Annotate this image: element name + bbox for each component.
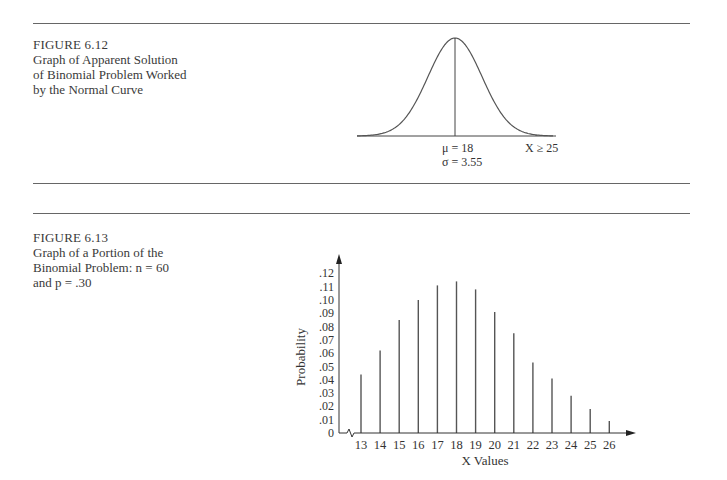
x-tick-labels: 1314151617181920212223242526 — [355, 438, 616, 452]
x-tick-label: 13 — [355, 438, 368, 452]
x-tick-label: 24 — [565, 438, 578, 452]
x-axis-arrow-icon — [626, 430, 636, 436]
y-tick-label: .06 — [319, 346, 334, 360]
x-tick-label: 26 — [603, 438, 616, 452]
y-tick-label: .09 — [319, 306, 334, 320]
x-tick-label: 22 — [527, 438, 540, 452]
x-region-label: X ≥ 25 — [525, 141, 558, 155]
x-tick-label: 21 — [508, 438, 521, 452]
y-axis-label: Probability — [293, 328, 308, 386]
probability-bars — [361, 281, 609, 433]
x-axis-with-break — [339, 429, 628, 437]
y-tick-label: .11 — [319, 280, 334, 294]
y-tick-labels: 0.01.02.03.04.05.06.07.08.09.10.11.12 — [319, 266, 334, 440]
y-tick-label: .05 — [319, 360, 334, 374]
x-axis-label: X Values — [461, 453, 508, 468]
normal-curve-chart: μ = 18 σ = 3.55 X ≥ 25 — [357, 38, 558, 169]
sigma-label: σ = 3.55 — [442, 155, 482, 169]
mu-label: μ = 18 — [442, 141, 473, 155]
x-tick-label: 15 — [393, 438, 406, 452]
y-tick-label: .07 — [319, 333, 334, 347]
x-tick-label: 20 — [488, 438, 501, 452]
x-tick-label: 25 — [584, 438, 597, 452]
x-tick-label: 16 — [412, 438, 425, 452]
y-tick-label: .04 — [319, 373, 334, 387]
y-tick-label: 0 — [328, 426, 334, 440]
x-tick-label: 23 — [546, 438, 559, 452]
y-tick-label: .08 — [319, 320, 334, 334]
x-tick-label: 14 — [374, 438, 387, 452]
y-tick-label: .10 — [319, 293, 334, 307]
x-tick-label: 17 — [431, 438, 444, 452]
y-axis-arrow-icon — [336, 254, 342, 264]
y-tick-label: .03 — [319, 386, 334, 400]
x-tick-label: 19 — [469, 438, 482, 452]
x-tick-label: 18 — [450, 438, 463, 452]
y-tick-label: .01 — [319, 413, 334, 427]
binomial-bar-chart: 0.01.02.03.04.05.06.07.08.09.10.11.12 13… — [293, 254, 636, 468]
charts-canvas: μ = 18 σ = 3.55 X ≥ 25 0.01.02.03.04.05.… — [0, 0, 727, 480]
y-tick-label: .02 — [319, 399, 334, 413]
y-tick-label: .12 — [319, 266, 334, 280]
